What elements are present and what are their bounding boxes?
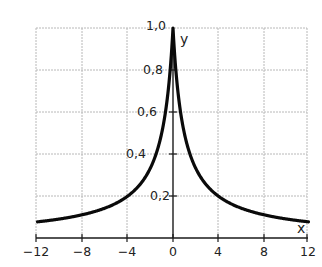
y-tick-label: 0,8 (143, 62, 163, 77)
y-tick-label: 0,2 (150, 188, 170, 203)
x-tick-label: 0 (169, 244, 177, 259)
x-tick-label: −12 (23, 244, 49, 259)
function-plot: −12 −8 −4 0 4 8 12 0,2 0,4 0,6 0,8 1,0 y… (0, 0, 322, 267)
x-tick-label: 4 (214, 244, 222, 259)
x-tick-label: −8 (73, 244, 91, 259)
x-tick-label: 8 (260, 244, 268, 259)
x-axis-label: x (297, 220, 305, 236)
x-tick-labels: −12 −8 −4 0 4 8 12 (23, 244, 316, 259)
y-axis-label: y (180, 31, 188, 47)
y-tick-label: 0,4 (126, 146, 146, 161)
y-tick-label: 0,6 (137, 104, 157, 119)
y-tick-label: 1,0 (146, 18, 166, 33)
x-tick-label: −4 (118, 244, 136, 259)
x-tick-label: 12 (300, 244, 316, 259)
